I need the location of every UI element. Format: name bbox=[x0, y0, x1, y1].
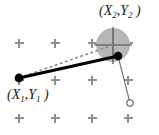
plus-mark-r2c3 bbox=[88, 76, 97, 85]
p2-x-var: X bbox=[104, 3, 113, 18]
point2-label: (X2,Y2 ) bbox=[99, 4, 141, 20]
point1-label: (X1,Y1 ) bbox=[7, 88, 49, 104]
p1-x-var: X bbox=[12, 87, 21, 102]
plus-mark-r3c1 bbox=[15, 114, 24, 123]
point2-dot bbox=[114, 52, 122, 60]
p2-close-paren: ) bbox=[133, 3, 141, 18]
plus-mark-r2c2 bbox=[51, 76, 60, 85]
p1-y-var: Y bbox=[28, 87, 36, 102]
solid-vector-line bbox=[19, 56, 118, 78]
vector-diagram bbox=[0, 0, 159, 135]
open-circle-marker bbox=[127, 100, 133, 106]
p2-y-var: Y bbox=[120, 3, 128, 18]
plus-mark-r1c2 bbox=[51, 39, 60, 48]
plus-mark-r3c3 bbox=[88, 114, 97, 123]
p1-close-paren: ) bbox=[41, 87, 49, 102]
plus-mark-r3c4 bbox=[124, 114, 133, 123]
point1-dot bbox=[15, 74, 24, 83]
plus-mark-r1c3 bbox=[88, 39, 97, 48]
plus-mark-r3c2 bbox=[51, 114, 60, 123]
figure-canvas: (X2,Y2 ) (X1,Y1 ) bbox=[0, 0, 159, 135]
plus-mark-r1c1 bbox=[15, 39, 24, 48]
